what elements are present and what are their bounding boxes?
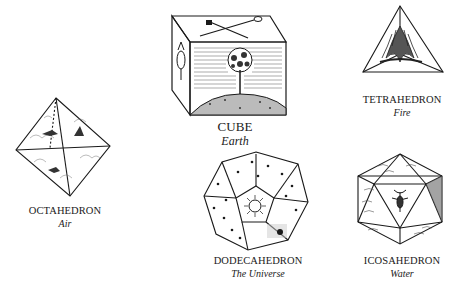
octahedron-drawing	[14, 98, 112, 198]
tree-icon	[228, 48, 252, 96]
dodecahedron-drawing	[202, 152, 310, 252]
cube-element: Earth	[190, 135, 280, 147]
dodecahedron-caption: DODECAHEDRON The Universe	[200, 256, 316, 279]
icosahedron-illustration	[354, 154, 446, 246]
radish-icon	[177, 42, 185, 80]
icosahedron-caption: ICOSAHEDRON Water	[352, 256, 451, 279]
icosahedron-element: Water	[352, 269, 451, 279]
cube-illustration	[170, 12, 290, 117]
tetrahedron-element: Fire	[352, 108, 451, 118]
sun-icon	[244, 195, 266, 217]
icosahedron-name: ICOSAHEDRON	[352, 256, 451, 267]
tetrahedron-drawing	[362, 6, 444, 76]
octahedron-name: OCTAHEDRON	[12, 206, 118, 217]
dodecahedron-element: The Universe	[200, 269, 316, 279]
cube-name: CUBE	[190, 120, 280, 133]
dodecahedron-illustration	[202, 152, 310, 252]
dodecahedron-name: DODECAHEDRON	[200, 256, 316, 267]
scorpion-icon	[392, 190, 408, 212]
tetrahedron-name: TETRAHEDRON	[352, 95, 451, 106]
tetrahedron-illustration	[362, 6, 444, 76]
octahedron-element: Air	[12, 219, 118, 229]
icosahedron-drawing	[354, 154, 446, 246]
cube-drawing	[170, 12, 290, 117]
octahedron-illustration	[14, 98, 112, 198]
octahedron-caption: OCTAHEDRON Air	[12, 206, 118, 229]
tetrahedron-caption: TETRAHEDRON Fire	[352, 95, 451, 118]
cube-caption: CUBE Earth	[190, 120, 280, 147]
